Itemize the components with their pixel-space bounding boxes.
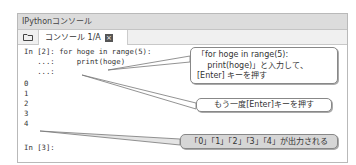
- callout-output-note: 「0」「1」「2」「3」「4」が出力される: [180, 134, 338, 149]
- callout-press-enter-again: もう一度[Enter]キーを押す: [196, 98, 332, 112]
- callout-enter-code: 「for hoge in range(5): print(hoge)」と入力して…: [190, 47, 338, 84]
- callout-text: [Enter] キーを押す: [197, 71, 331, 82]
- callout-text: 「for hoge in range(5):: [197, 50, 331, 61]
- callout-text: print(hoge)」と入力して、: [197, 61, 331, 72]
